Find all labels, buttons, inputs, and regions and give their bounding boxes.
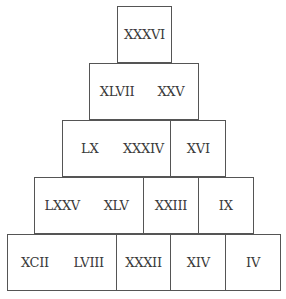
pyramid-cell: XXXIV xyxy=(117,120,172,177)
pyramid-cell: XLV xyxy=(89,177,144,234)
pyramid-cell: IX xyxy=(199,177,254,234)
pyramid-cell: LVIII xyxy=(62,234,117,291)
pyramid-cell: LXXV xyxy=(34,177,90,234)
pyramid-cell: XVI xyxy=(171,120,226,177)
pyramid-cell: IV xyxy=(226,234,281,291)
pyramid-cell: XCII xyxy=(7,234,63,291)
pyramid-cell: XIV xyxy=(171,234,226,291)
pyramid-cell: XXV xyxy=(144,63,199,120)
pyramid-cell: XXXVI xyxy=(117,6,173,63)
pyramid-cell: XXIII xyxy=(144,177,199,234)
number-pyramid: XXXVIXLVIIXXVLXXXXIVXVILXXVXLVXXIIIIXXCI… xyxy=(0,0,286,299)
pyramid-cell: XXXII xyxy=(117,234,172,291)
pyramid-cell: LX xyxy=(62,120,118,177)
pyramid-cell: XLVII xyxy=(89,63,145,120)
